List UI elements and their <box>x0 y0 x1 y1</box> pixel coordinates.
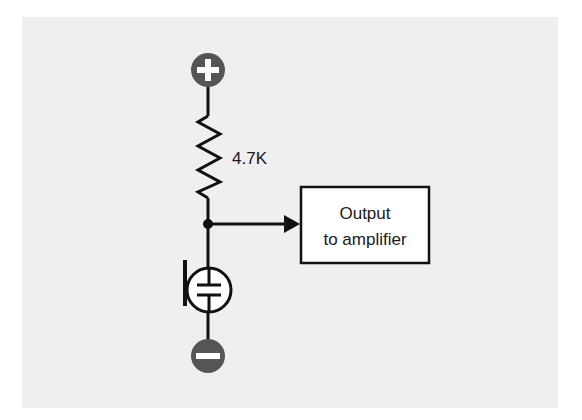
output-box-line2: to amplifier <box>323 230 406 249</box>
negative-terminal-icon <box>191 339 225 373</box>
positive-terminal-icon <box>191 53 225 87</box>
microphone-icon <box>185 260 231 312</box>
output-box <box>301 187 429 263</box>
circuit-schematic: 4.7K Output to amplifier <box>0 0 582 420</box>
arrow-right-icon <box>284 215 300 233</box>
resistor-icon <box>198 116 220 198</box>
resistor-value-label: 4.7K <box>232 149 268 168</box>
output-box-line1: Output <box>339 204 390 223</box>
